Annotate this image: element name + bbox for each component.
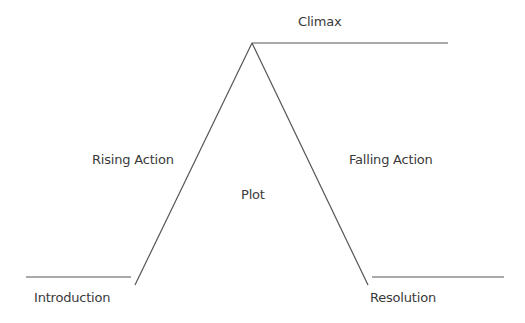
resolution-label: Resolution <box>370 290 436 305</box>
plot-diagram <box>0 0 525 323</box>
climax-label: Climax <box>298 14 341 29</box>
rising-action-label: Rising Action <box>92 152 174 167</box>
plot-label: Plot <box>241 187 265 202</box>
falling-action-label: Falling Action <box>349 152 433 167</box>
introduction-label: Introduction <box>34 290 110 305</box>
